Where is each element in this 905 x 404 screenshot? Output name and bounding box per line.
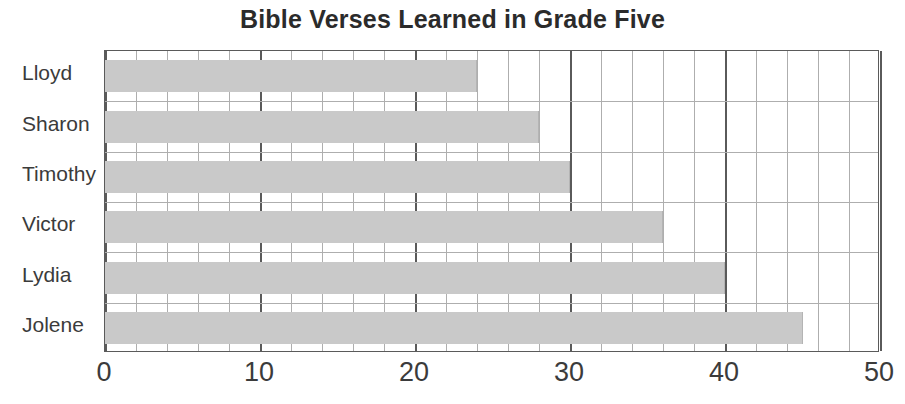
- x-tick-label: 0: [96, 357, 111, 388]
- x-axis-tick-labels: 01020304050: [0, 357, 905, 402]
- x-tick-label: 20: [399, 357, 429, 388]
- bar-series: [105, 51, 878, 351]
- category-label: Timothy: [8, 162, 104, 186]
- major-gridline: [880, 51, 882, 351]
- category-axis: LloydSharonTimothyVictorLydiaJolene: [0, 50, 104, 352]
- bar: [105, 312, 803, 344]
- category-label: Lydia: [8, 263, 104, 287]
- x-tick-label: 10: [244, 357, 274, 388]
- bar: [105, 211, 663, 243]
- category-label: Sharon: [8, 112, 104, 136]
- category-label: Jolene: [8, 313, 104, 337]
- x-tick-label: 30: [554, 357, 584, 388]
- plot-area: [104, 50, 879, 352]
- bar: [105, 60, 477, 92]
- bar: [105, 111, 539, 143]
- category-label: Lloyd: [8, 61, 104, 85]
- chart-title: Bible Verses Learned in Grade Five: [0, 5, 905, 34]
- bar: [105, 262, 725, 294]
- x-tick-label: 40: [709, 357, 739, 388]
- chart-page: Bible Verses Learned in Grade Five Lloyd…: [0, 0, 905, 404]
- category-label: Victor: [8, 212, 104, 236]
- x-tick-label: 50: [864, 357, 894, 388]
- bar: [105, 161, 570, 193]
